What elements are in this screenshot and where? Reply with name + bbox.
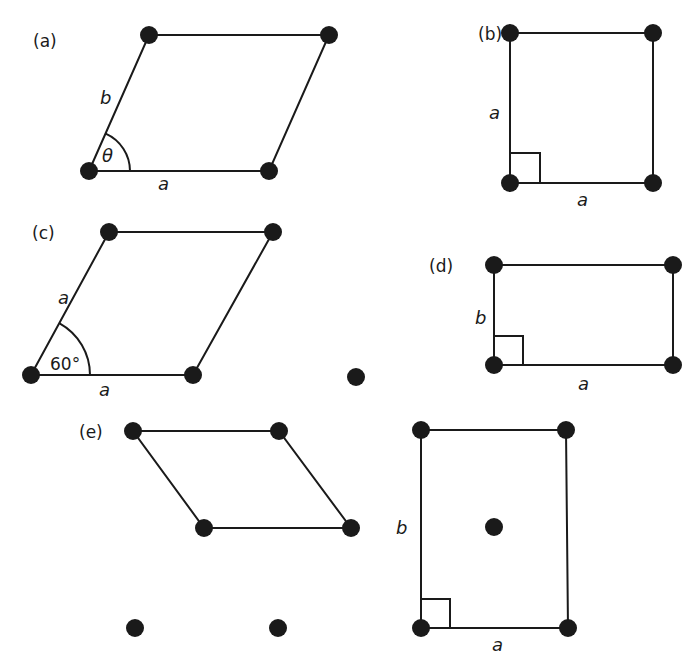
lattice-point-icon bbox=[557, 421, 575, 439]
edge-length-label: b bbox=[100, 87, 111, 108]
lattice-point-icon bbox=[270, 422, 288, 440]
edge-length-label: b bbox=[396, 517, 407, 538]
angle-label: θ bbox=[102, 145, 113, 166]
unit-cell-outline bbox=[494, 265, 673, 365]
lattice-point-icon bbox=[664, 356, 682, 374]
lattice-point-icon bbox=[342, 519, 360, 537]
lattice-point-icon bbox=[485, 356, 503, 374]
lattice-diagram: (a)θba(b)aa(c)60°aa(d)ba(e)ba bbox=[0, 0, 694, 658]
panel-oblique: (a)θba bbox=[33, 26, 338, 194]
lattice-point-icon bbox=[100, 223, 118, 241]
lattice-point-icon bbox=[559, 619, 577, 637]
edge-length-label: a bbox=[577, 189, 588, 210]
lattice-point-icon bbox=[260, 162, 278, 180]
edge-length-label: a bbox=[578, 373, 589, 394]
lattice-point-icon bbox=[124, 422, 142, 440]
edge-length-label: a bbox=[492, 634, 503, 655]
lattice-point-icon bbox=[140, 26, 158, 44]
lattice-point-icon bbox=[126, 619, 144, 637]
unit-cell-outline bbox=[510, 33, 653, 183]
lattice-point-icon bbox=[664, 256, 682, 274]
lattice-point-icon bbox=[195, 519, 213, 537]
panel-label: (d) bbox=[429, 256, 453, 276]
lattice-point-icon bbox=[264, 223, 282, 241]
lattice-point-icon bbox=[501, 24, 519, 42]
panel-label: (e) bbox=[79, 422, 103, 442]
lattice-point-icon bbox=[412, 619, 430, 637]
unit-cell-outline bbox=[133, 431, 351, 528]
panel-rectangular: (d)ba bbox=[429, 256, 682, 394]
edge-length-label: a bbox=[99, 379, 110, 400]
lattice-point-icon bbox=[412, 421, 430, 439]
lattice-point-icon bbox=[644, 24, 662, 42]
panel-label: (c) bbox=[32, 223, 55, 243]
edge-length-label: a bbox=[158, 173, 169, 194]
edge-length-label: a bbox=[489, 102, 500, 123]
lattice-point-icon bbox=[80, 162, 98, 180]
panel-label: (b) bbox=[478, 24, 502, 44]
panel-square: (b)aa bbox=[478, 24, 662, 210]
panel-centered-rectangular: (e)ba bbox=[79, 421, 577, 655]
lattice-point-icon bbox=[22, 366, 40, 384]
lattice-point-icon bbox=[485, 256, 503, 274]
lattice-point-icon bbox=[644, 174, 662, 192]
lattice-point-icon bbox=[320, 26, 338, 44]
panel-label: (a) bbox=[33, 31, 57, 51]
lattice-point-icon bbox=[184, 366, 202, 384]
lattice-point-icon bbox=[269, 619, 287, 637]
edge-length-label: a bbox=[58, 287, 69, 308]
angle-label: 60° bbox=[50, 354, 80, 374]
lattice-point-icon bbox=[485, 518, 503, 536]
lattice-point-icon bbox=[347, 368, 365, 386]
lattice-point-icon bbox=[501, 174, 519, 192]
edge-length-label: b bbox=[475, 307, 486, 328]
panel-hexagonal: (c)60°aa bbox=[22, 223, 365, 400]
